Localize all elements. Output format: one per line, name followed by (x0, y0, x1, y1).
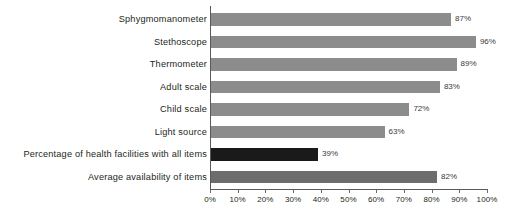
chart-row: Percentage of health facilities with all… (0, 143, 510, 166)
x-axis-tick-label: 50% (340, 195, 356, 204)
bar-track: 83% (210, 76, 487, 99)
bar-track: 87% (210, 8, 487, 31)
x-axis-tick-label: 30% (285, 195, 301, 204)
x-axis-tick-label: 10% (230, 195, 246, 204)
chart-row: Adult scale 83% (0, 76, 510, 99)
bar-adult-scale (210, 81, 440, 94)
category-label: Light source (155, 121, 207, 144)
bar-track: 63% (210, 121, 487, 144)
bar-child-scale (210, 103, 409, 116)
x-axis-tick (265, 190, 266, 193)
category-label: Thermometer (150, 53, 207, 76)
x-axis-tick-label: 80% (423, 195, 439, 204)
x-axis-tick-label: 100% (477, 195, 498, 204)
bar-thermometer (210, 58, 457, 71)
chart-row: Sphygmomanometer 87% (0, 8, 510, 31)
bar-track: 96% (210, 31, 487, 54)
chart-row: Average availability of items 82% (0, 166, 510, 189)
bar-sphygmomanometer (210, 13, 451, 26)
x-axis-tick-label: 0% (204, 195, 216, 204)
value-label: 87% (455, 12, 471, 26)
chart-row: Light source 63% (0, 121, 510, 144)
x-axis-tick (459, 190, 460, 193)
chart-row: Thermometer 89% (0, 53, 510, 76)
x-axis-tick (487, 190, 488, 193)
category-label: Average availability of items (88, 166, 207, 189)
x-axis-tick-label: 90% (451, 195, 467, 204)
x-axis-tick (432, 190, 433, 193)
category-label: Sphygmomanometer (119, 8, 207, 31)
bar-track: 39% (210, 143, 487, 166)
bar-chart: Sphygmomanometer 87% Stethoscope 96% The… (0, 0, 510, 216)
x-axis-tick (293, 190, 294, 193)
value-label: 39% (322, 147, 338, 161)
chart-plot-area: Sphygmomanometer 87% Stethoscope 96% The… (0, 8, 510, 189)
chart-row: Child scale 72% (0, 98, 510, 121)
x-axis-tick (376, 190, 377, 193)
value-label: 72% (413, 102, 429, 116)
x-axis-tick (210, 190, 211, 193)
category-label: Stethoscope (154, 31, 207, 54)
category-label: Adult scale (160, 76, 207, 99)
x-axis-tick-label: 70% (396, 195, 412, 204)
value-label: 89% (461, 57, 477, 71)
category-label: Percentage of health facilities with all… (23, 143, 207, 166)
x-axis-tick (321, 190, 322, 193)
x-axis-tick (349, 190, 350, 193)
value-label: 82% (441, 170, 457, 184)
bar-average-availability (210, 171, 437, 184)
bar-all-items (210, 148, 318, 161)
bar-track: 72% (210, 98, 487, 121)
bar-track: 82% (210, 166, 487, 189)
chart-row: Stethoscope 96% (0, 31, 510, 54)
value-label: 96% (480, 35, 496, 49)
bar-track: 89% (210, 53, 487, 76)
x-axis-tick (404, 190, 405, 193)
y-axis-line (210, 6, 211, 190)
x-axis-tick-label: 20% (257, 195, 273, 204)
value-label: 83% (444, 80, 460, 94)
bar-stethoscope (210, 36, 476, 49)
bar-light-source (210, 126, 385, 139)
x-axis-tick-label: 60% (368, 195, 384, 204)
category-label: Child scale (160, 98, 207, 121)
x-axis-tick (238, 190, 239, 193)
value-label: 63% (389, 125, 405, 139)
x-axis-tick-label: 40% (313, 195, 329, 204)
